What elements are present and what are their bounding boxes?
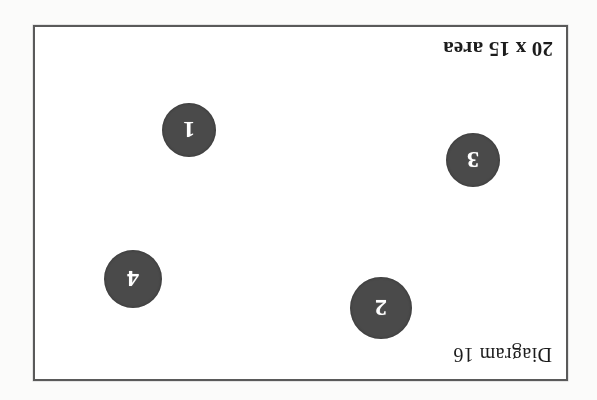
circle-marker-label: 3 — [467, 148, 479, 172]
circle-marker-label: 1 — [183, 118, 195, 142]
circle-marker-2[interactable]: 2 — [350, 277, 412, 339]
circle-marker-3[interactable]: 3 — [446, 133, 500, 187]
circle-marker-4[interactable]: 4 — [104, 250, 162, 308]
area-dimension-caption: 20 x 15 area — [443, 38, 553, 59]
circle-marker-1[interactable]: 1 — [162, 103, 216, 157]
circle-marker-label: 2 — [375, 296, 387, 320]
diagram-page: Diagram 16 20 x 15 area 2431 — [0, 0, 597, 400]
circle-marker-label: 4 — [127, 267, 139, 291]
diagram-title-caption: Diagram 16 — [453, 345, 552, 365]
diagram-frame-border: Diagram 16 20 x 15 area 2431 — [33, 25, 568, 381]
diagram-rotated-content: Diagram 16 20 x 15 area 2431 — [35, 27, 566, 379]
